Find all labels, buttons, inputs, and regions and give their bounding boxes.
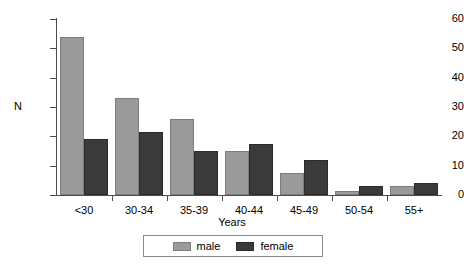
y-tick bbox=[50, 166, 56, 167]
x-tick-label: 55+ bbox=[384, 204, 444, 216]
legend-label-female: female bbox=[260, 241, 293, 252]
bar-female-35-39 bbox=[194, 151, 218, 195]
y-tick bbox=[50, 136, 56, 137]
bar-group bbox=[335, 19, 383, 195]
bar-male-40-44 bbox=[225, 151, 249, 195]
bar-group bbox=[60, 19, 108, 195]
bar-female-50-54 bbox=[359, 186, 383, 195]
bars-layer bbox=[57, 19, 442, 195]
x-tick bbox=[112, 196, 113, 201]
y-axis-title: N bbox=[14, 101, 22, 112]
bar-male-30-34 bbox=[115, 98, 139, 195]
x-tick-label: 35-39 bbox=[164, 204, 224, 216]
x-tick-label: 30-34 bbox=[109, 204, 169, 216]
x-axis-title: Years bbox=[0, 216, 464, 228]
x-tick bbox=[222, 196, 223, 201]
legend-swatch-female bbox=[236, 242, 254, 251]
chart-legend: male female bbox=[143, 235, 323, 257]
y-tick bbox=[50, 48, 56, 49]
x-tick-label: 45-49 bbox=[274, 204, 334, 216]
x-tick bbox=[387, 196, 388, 201]
bar-chart: 0102030405060N <3030-3435-3940-4445-4950… bbox=[0, 0, 464, 266]
bar-male-55+ bbox=[390, 186, 414, 195]
x-tick bbox=[332, 196, 333, 201]
bar-female-40-44 bbox=[249, 144, 273, 195]
legend-swatch-male bbox=[173, 242, 191, 251]
legend-item-male: male bbox=[173, 241, 221, 252]
y-tick bbox=[50, 195, 56, 196]
y-tick bbox=[50, 107, 56, 108]
bar-group bbox=[170, 19, 218, 195]
bar-male-45-49 bbox=[280, 173, 304, 195]
bar-female-45-49 bbox=[304, 160, 328, 195]
bar-group bbox=[225, 19, 273, 195]
x-tick-label: <30 bbox=[54, 204, 114, 216]
bar-female-30-34 bbox=[139, 132, 163, 195]
bar-female-55+ bbox=[414, 183, 438, 195]
y-tick bbox=[50, 78, 56, 79]
bar-male-35-39 bbox=[170, 119, 194, 195]
x-tick-label: 50-54 bbox=[329, 204, 389, 216]
x-tick bbox=[167, 196, 168, 201]
x-tick bbox=[277, 196, 278, 201]
bar-male-<30 bbox=[60, 37, 84, 195]
bar-male-50-54 bbox=[335, 191, 359, 195]
bar-group bbox=[390, 19, 438, 195]
x-axis-line bbox=[56, 195, 442, 196]
bar-group bbox=[280, 19, 328, 195]
y-tick bbox=[50, 19, 56, 20]
x-tick-label: 40-44 bbox=[219, 204, 279, 216]
legend-item-female: female bbox=[236, 241, 293, 252]
bar-group bbox=[115, 19, 163, 195]
legend-label-male: male bbox=[197, 241, 221, 252]
bar-female-<30 bbox=[84, 139, 108, 195]
